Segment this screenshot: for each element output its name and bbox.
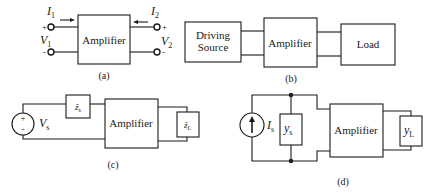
panel-c-top-wire-source bbox=[23, 104, 66, 113]
panel-c-output-top-wire bbox=[158, 107, 187, 112]
panel-d-amplifier-label: Amplifier bbox=[334, 124, 378, 136]
panel-d-caption: (d) bbox=[337, 176, 349, 188]
panel-c-source-plus-sign: + bbox=[20, 113, 25, 123]
panel-b-block-chain: Driving Source Amplifier Load (b) bbox=[185, 18, 395, 85]
panel-d-output-top-wire bbox=[383, 111, 411, 116]
panel-d-current-source-circuit: Is ys Amplifier yL (d) bbox=[240, 93, 422, 188]
panel-a-input-current-label: I1 bbox=[46, 4, 55, 20]
panel-b-load-label: Load bbox=[357, 38, 380, 50]
panel-a-input-voltage-label: V1 bbox=[40, 33, 51, 49]
panel-a-two-port-amplifier: Amplifier + - + - I1 I2 V1 V2 (a) bbox=[40, 4, 172, 82]
panel-a-input-plus-sign: + bbox=[42, 22, 47, 32]
panel-c-amplifier-label: Amplifier bbox=[109, 117, 153, 129]
panel-d-source-current-label: Is bbox=[266, 118, 274, 134]
panel-d-top-junction-node bbox=[289, 93, 293, 97]
panel-b-driving-source-label-line1: Driving bbox=[196, 29, 231, 41]
panel-a-amplifier-label: Amplifier bbox=[82, 34, 126, 46]
panel-c-voltage-source-circuit: + - Vs ẑs Amplifier ẑL (c) bbox=[12, 95, 199, 171]
panel-c-bottom-wire bbox=[23, 135, 105, 139]
panel-a-output-plus-sign: + bbox=[162, 22, 167, 32]
panel-b-driving-source-label-line2: Source bbox=[198, 41, 229, 53]
arrowhead-left-icon bbox=[133, 20, 138, 24]
amplifier-figure: Amplifier + - + - I1 I2 V1 V2 (a) Drivin… bbox=[0, 0, 437, 194]
panel-b-amplifier-label: Amplifier bbox=[268, 37, 312, 49]
panel-d-bottom-junction-node bbox=[289, 159, 293, 163]
panel-a-input-minus-sign: - bbox=[43, 47, 46, 57]
panel-a-output-current-label: I2 bbox=[150, 4, 159, 20]
panel-c-source-voltage-label: Vs bbox=[39, 116, 49, 132]
panel-c-output-bottom-wire bbox=[158, 137, 187, 141]
panel-a-output-voltage-label: V2 bbox=[161, 34, 172, 50]
panel-a-input-minus-terminal bbox=[48, 49, 54, 55]
panel-a-output-plus-terminal bbox=[154, 24, 160, 30]
panel-a-output-minus-terminal bbox=[154, 49, 160, 55]
panel-a-caption: (a) bbox=[98, 70, 109, 82]
arrowhead-right-icon bbox=[70, 18, 75, 22]
panel-b-caption: (b) bbox=[285, 73, 297, 85]
panel-d-output-bottom-wire bbox=[383, 146, 411, 150]
panel-a-output-minus-sign: - bbox=[162, 47, 165, 57]
panel-a-input-plus-terminal bbox=[48, 24, 54, 30]
panel-c-caption: (c) bbox=[107, 159, 118, 171]
panel-c-source-minus-sign: - bbox=[22, 124, 25, 134]
